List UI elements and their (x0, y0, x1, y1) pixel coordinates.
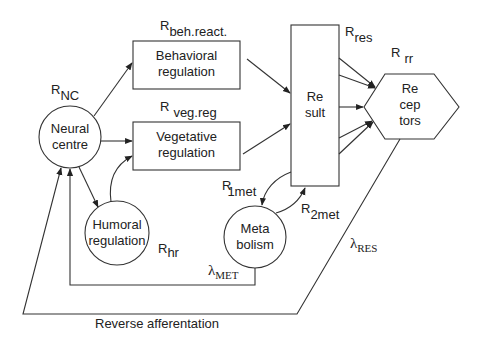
edge-result-receptors-5 (339, 122, 373, 154)
humoral-line1: Humoral (85, 217, 149, 233)
r-2met-label: R2met (301, 201, 339, 216)
r-res-label: Rres (345, 24, 372, 39)
vegetative-line2: regulation (133, 145, 240, 161)
r-nc-main: R (51, 82, 60, 97)
r-veg-label: Rveg.reg (160, 99, 217, 114)
behavioral-label: Behavioral regulation (133, 48, 240, 80)
edge-result-metabolism (262, 172, 291, 205)
r-rr-label: Rrr (391, 45, 413, 60)
r-nc-label: RNC (51, 82, 79, 97)
lambda-res-label: λRES (350, 236, 377, 252)
result-line1: Re (291, 89, 339, 105)
result-label: Re sult (291, 89, 339, 121)
r-rr-main: R (391, 45, 400, 60)
r-veg-sub: veg.reg (173, 105, 216, 120)
edge-nc-behavioral (94, 63, 132, 116)
r-2met-sub: 2met (310, 207, 339, 222)
lambda-met-label: λMET (208, 263, 239, 279)
r-rr-sub: rr (404, 51, 413, 66)
edge-result-receptors-1 (339, 58, 375, 87)
receptors-line2: cep (385, 97, 435, 113)
humoral-line2: regulation (85, 233, 149, 249)
r-hr-main: R (158, 241, 167, 256)
r-2met-main: R (301, 201, 310, 216)
behavioral-line1: Behavioral (133, 48, 240, 64)
r-res-main: R (345, 24, 354, 39)
r-1met-label: R1met (222, 178, 256, 193)
vegetative-line1: Vegetative (133, 129, 240, 145)
edge-behavioral-result (247, 59, 290, 93)
r-hr-sub: hr (167, 245, 179, 260)
metabolism-line1: Meta (224, 221, 286, 237)
r-1met-sub: 1met (227, 184, 256, 199)
edge-result-receptors-4 (339, 121, 372, 138)
vegetative-label: Vegetative regulation (133, 129, 240, 161)
receptors-line3: tors (385, 113, 435, 129)
edge-nc-humoral (79, 167, 98, 207)
r-beh-sub: beh.react. (169, 24, 227, 39)
neural-centre-line1: Neural (39, 121, 101, 137)
edge-vegetative-result (243, 124, 290, 154)
r-veg-main: R (160, 99, 169, 114)
receptors-line1: Re (385, 81, 435, 97)
edge-result-receptors-2 (339, 75, 375, 88)
neural-centre-line2: centre (39, 137, 101, 153)
r-nc-sub: NC (60, 88, 79, 103)
r-beh-label: Rbeh.react. (160, 18, 227, 33)
result-line2: sult (291, 105, 339, 121)
r-res-sub: res (354, 30, 372, 45)
behavioral-line2: regulation (133, 64, 240, 80)
r-hr-label: Rhr (158, 241, 179, 256)
lambda-res-sub: RES (357, 242, 377, 254)
lambda-met-sub: MET (215, 269, 238, 281)
edge-receptors-neuralcentre (23, 139, 400, 314)
metabolism-line2: bolism (224, 237, 286, 253)
receptors-label: Re cep tors (385, 81, 435, 129)
humoral-label: Humoral regulation (85, 217, 149, 249)
reverse-afferentation-label: Reverse afferentation (95, 316, 219, 331)
r-beh-main: R (160, 18, 169, 33)
neural-centre-label: Neural centre (39, 121, 101, 153)
edge-humoral-vegetative (110, 156, 132, 202)
metabolism-label: Meta bolism (224, 221, 286, 253)
